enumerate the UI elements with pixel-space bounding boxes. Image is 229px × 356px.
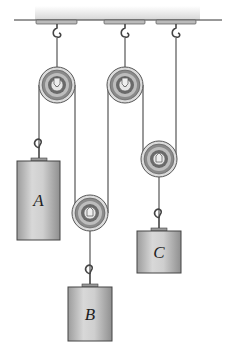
block-c: C: [137, 228, 181, 273]
block-b: B: [68, 284, 112, 341]
ceiling-mounts: [36, 20, 196, 24]
block-a: A: [17, 158, 60, 240]
block-c-label: C: [153, 243, 165, 262]
ceiling: [14, 6, 222, 20]
hook-icon: [53, 24, 179, 37]
block-a-label: A: [32, 191, 44, 210]
pulley-diagram: A B C: [0, 0, 229, 356]
block-b-label: B: [85, 305, 96, 324]
